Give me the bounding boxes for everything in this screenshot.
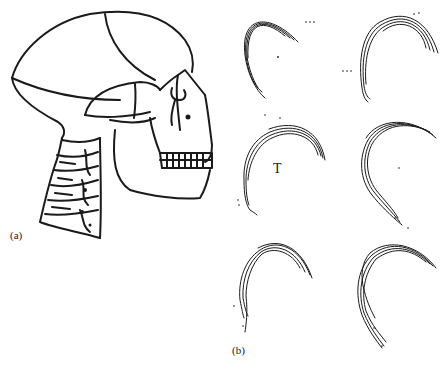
tracing-b4 xyxy=(362,122,436,225)
tracing-b2 xyxy=(361,16,438,102)
tracing-b3 xyxy=(244,125,325,215)
tracing-annotation-t: T xyxy=(273,161,282,177)
tracing-b1 xyxy=(244,22,298,98)
tracings-grid xyxy=(0,0,443,380)
tracing-b5 xyxy=(240,243,312,332)
figure: (a) xyxy=(0,0,443,380)
tracing-b6 xyxy=(358,245,436,348)
panel-b-label: (b) xyxy=(232,344,245,356)
